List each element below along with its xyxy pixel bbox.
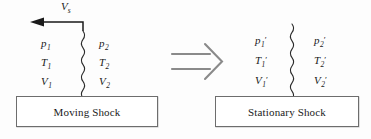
state-p2: p2 [99,38,108,49]
state-V1-prime: V1′ [255,75,268,86]
state-T1-prime-mark: ′ [265,55,267,65]
state-V1-subscript: 1 [48,81,52,90]
state-V1-symbol: V [41,75,48,87]
velocity-shock-subscript: s [68,6,71,15]
velocity-shock-symbol: V [61,0,68,12]
velocity-shock-label: Vs [61,1,71,12]
stationary-shock-wave-line [290,24,293,100]
state-V1-prime-symbol: V [255,74,262,86]
state-V2-prime-mark: ′ [325,75,327,85]
moving-shock-caption-box: Moving Shock [16,96,158,127]
state-T2-prime-mark: ′ [324,55,326,65]
state-p2-symbol: p [99,37,105,49]
shock-comparison-figure: Vs p1 T1 V1 p2 T2 V2 p1′ T1′ V1′ p2′ T2′… [0,0,371,139]
stationary-shock-caption-box: Stationary Shock [215,96,359,127]
state-T1-prime: T1′ [255,55,267,66]
moving-shock-velocity-arrow [30,17,83,31]
state-T1-prime-symbol: T [255,54,261,66]
state-p2-prime-symbol: p [314,34,320,46]
state-T1-subscript: 1 [48,62,52,71]
state-T1-symbol: T [41,56,47,68]
state-T2-subscript: 2 [106,62,110,71]
state-p2-prime-mark: ′ [324,35,326,45]
state-T2-prime: T2′ [314,55,326,66]
state-V2-symbol: V [99,75,106,87]
state-p1-prime-symbol: p [255,34,261,46]
state-p1-prime-mark: ′ [265,35,267,45]
state-T2-symbol: T [99,56,105,68]
state-T1: T1 [41,57,51,68]
moving-shock-caption-text: Moving Shock [54,106,121,118]
stationary-shock-caption-text: Stationary Shock [248,106,326,118]
state-p2-prime: p2′ [314,35,326,46]
state-p2-subscript: 2 [105,43,109,52]
state-V2-prime-symbol: V [314,74,321,86]
implies-double-arrow-icon [172,44,222,79]
arrowhead-left-icon [30,17,44,26]
state-V1-prime-mark: ′ [266,75,268,85]
state-p1-prime: p1′ [255,35,267,46]
state-V2-subscript: 2 [106,81,110,90]
state-p1: p1 [41,38,50,49]
state-p1-subscript: 1 [47,43,51,52]
state-T2: T2 [99,57,109,68]
state-V2-prime: V2′ [314,75,327,86]
state-p1-symbol: p [41,37,47,49]
state-V2: V2 [99,76,110,87]
state-T2-prime-symbol: T [314,54,320,66]
state-V1: V1 [41,76,52,87]
